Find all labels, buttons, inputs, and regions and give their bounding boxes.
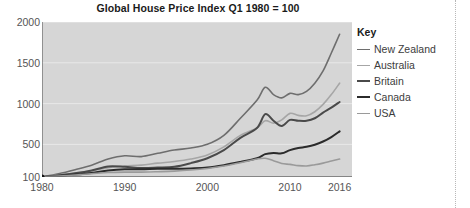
legend-line-swatch [357,96,370,98]
legend-item-label: USA [374,107,396,119]
legend-item-canada[interactable]: Canada [357,89,457,105]
legend-item-britain[interactable]: Britain [357,73,457,89]
legend-item-new-zealand[interactable]: New Zealand [357,41,457,57]
axis-spine [42,22,352,177]
x-tick-label: 2000 [196,181,219,193]
legend-item-label: New Zealand [374,43,436,55]
y-axis: 100500100015002000 [0,0,40,208]
y-tick-label: 1500 [4,58,40,68]
legend-line-swatch [357,49,370,50]
legend-item-usa[interactable]: USA [357,105,457,121]
x-tick-label: 2016 [328,181,351,193]
legend-title: Key [357,26,457,38]
x-tick-label: 2010 [278,181,301,193]
legend-item-label: Australia [374,59,415,71]
legend-item-list: New ZealandAustraliaBritainCanadaUSA [357,41,457,121]
chart-figure: Global House Price Index Q1 1980 = 100 1… [0,0,470,208]
legend-line-swatch [357,80,370,82]
legend-item-label: Britain [374,75,404,87]
legend-line-swatch [357,65,370,66]
legend-line-swatch [357,113,370,114]
x-axis: 19801990200020102016 [0,181,400,201]
chart-lines [42,22,352,177]
x-tick-label: 1980 [30,181,53,193]
y-tick-label: 2000 [4,17,40,27]
x-tick-label: 1990 [113,181,136,193]
chart-title: Global House Price Index Q1 1980 = 100 [42,2,354,14]
chart-legend: Key New ZealandAustraliaBritainCanadaUSA [357,26,457,121]
page-edge-dotted-rule [455,0,456,208]
series-line-new-zealand [42,34,340,177]
plot-area [42,22,352,177]
y-tick-label: 500 [4,139,40,149]
y-tick-label: 1000 [4,99,40,109]
legend-item-australia[interactable]: Australia [357,57,457,73]
legend-item-label: Canada [374,91,411,103]
origin-marker [42,174,45,177]
